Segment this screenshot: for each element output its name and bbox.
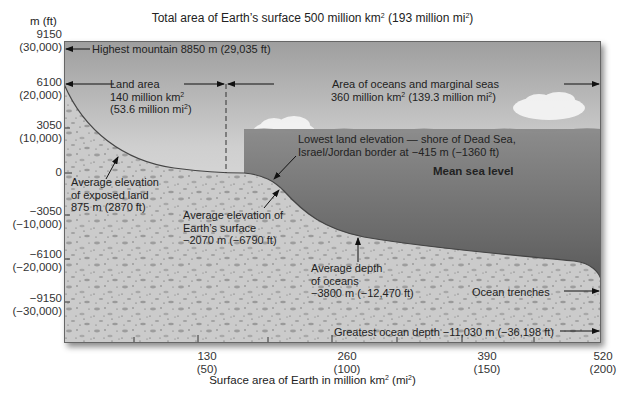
avg-land-line3: 875 m (2870 ft): [71, 201, 159, 214]
avg-depth-line3: −3800 m (−12,470 ft): [311, 287, 414, 300]
y-tick-minus-3050: −3050 (−10,000): [12, 205, 62, 231]
avg-surface-line3: −2070 m (−6790 ft): [183, 234, 283, 247]
paren: ): [492, 91, 496, 103]
y-tick-m: 3050: [19, 119, 62, 132]
label-mean-sea-level: Mean sea level: [433, 165, 514, 178]
sup: 2: [180, 91, 184, 98]
y-tick-m: 6100: [19, 76, 62, 89]
label-land-area: Land area 140 million km2 (53.6 million …: [110, 78, 192, 116]
label-lowest-land: Lowest land elevation — shore of Dead Se…: [298, 133, 516, 158]
y-axis-unit: m (ft): [30, 15, 57, 27]
avg-depth-line1: Average depth: [311, 262, 414, 275]
y-tick-0: 0: [56, 166, 62, 179]
lowest-land-line1: Lowest land elevation — shore of Dead Se…: [298, 133, 516, 146]
x-tick-260: 260 (100): [317, 350, 377, 376]
x-label-text: Surface area of Earth in million km: [209, 374, 385, 386]
y-tick-m: −3050: [12, 205, 62, 218]
x-tick-km: 260: [317, 350, 377, 363]
x-label-mid: (mi: [389, 374, 408, 386]
y-tick-ft: (20,000): [19, 89, 62, 102]
label-highest-mountain: Highest mountain 8850 m (29,035 ft): [92, 43, 271, 56]
ocean-area-title: Area of oceans and marginal seas: [331, 78, 499, 91]
ocean-area-values: 360 million km2 (139.3 million mi2): [331, 91, 499, 104]
y-tick-m: −9150: [12, 292, 62, 305]
y-tick-ft: (−30,000): [12, 305, 62, 318]
y-tick-3050: 3050 (10,000): [19, 119, 62, 145]
x-tick-390: 390 (150): [457, 350, 517, 376]
land-area-mi-text: (53.6 million mi: [110, 103, 184, 115]
x-axis-label: Surface area of Earth in million km2 (mi…: [0, 374, 625, 386]
land-area-title: Land area: [110, 78, 192, 91]
x-tick-520: 520 (200): [573, 350, 625, 376]
ocean-km: 360 million km: [331, 91, 401, 103]
land-area-mi: (53.6 million mi2): [110, 103, 192, 116]
x-tick-km: 130: [177, 350, 237, 363]
y-tick-minus-6100: −6100 (−20,000): [12, 248, 62, 274]
y-tick-m: 0: [56, 166, 62, 179]
label-avg-depth: Average depth of oceans −3800 m (−12,470…: [311, 262, 414, 300]
label-ocean-trenches: Ocean trenches: [472, 286, 550, 299]
avg-depth-line2: of oceans: [311, 275, 414, 288]
x-tick-km: 390: [457, 350, 517, 363]
x-tick-km: 520: [573, 350, 625, 363]
y-tick-9150: 9150 (30,000): [19, 28, 62, 54]
x-label-suffix: ): [412, 374, 416, 386]
title-mid: (193 million mi: [385, 11, 466, 25]
y-tick-ft: (10,000): [19, 132, 62, 145]
avg-surface-line1: Average elevation of: [183, 209, 283, 222]
y-tick-ft: (−10,000): [12, 218, 62, 231]
y-tick-m: −6100: [12, 248, 62, 261]
chart-title: Total area of Earth’s surface 500 millio…: [0, 11, 625, 25]
y-tick-ft: (30,000): [19, 41, 62, 54]
avg-land-line1: Average elevation: [71, 176, 159, 189]
label-greatest-depth: Greatest ocean depth −11,030 m (−36,198 …: [334, 326, 554, 339]
land-area-km: 140 million km2: [110, 91, 192, 104]
y-tick-ft: (−20,000): [12, 261, 62, 274]
y-tick-minus-9150: −9150 (−30,000): [12, 292, 62, 318]
lowest-land-line2: Israel/Jordan border at −415 m (−1360 ft…: [298, 146, 516, 159]
label-ocean-area: Area of oceans and marginal seas 360 mil…: [331, 78, 499, 103]
avg-surface-line2: Earth’s surface: [183, 222, 283, 235]
label-avg-surface: Average elevation of Earth’s surface −20…: [183, 209, 283, 247]
label-avg-land: Average elevation of exposed land 875 m …: [71, 176, 159, 214]
x-tick-130: 130 (50): [177, 350, 237, 376]
ocean-mi: (139.3 million mi: [405, 91, 488, 103]
title-text: Total area of Earth’s surface 500 millio…: [152, 11, 381, 25]
title-suffix: ): [469, 11, 473, 25]
paren: ): [188, 103, 192, 115]
y-tick-6100: 6100 (20,000): [19, 76, 62, 102]
avg-land-line2: of exposed land: [71, 189, 159, 202]
y-tick-m: 9150: [19, 28, 62, 41]
land-area-km-text: 140 million km: [110, 91, 180, 103]
